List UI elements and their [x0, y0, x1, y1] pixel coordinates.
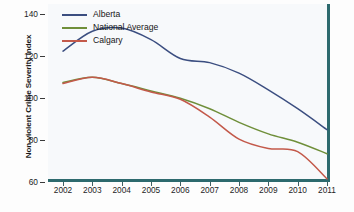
y-tick-label: 100 — [12, 94, 38, 102]
x-tick-label: 2011 — [312, 186, 342, 194]
x-tick-mark — [327, 182, 328, 186]
x-tick-mark — [92, 182, 93, 186]
y-tick-mark — [40, 14, 45, 15]
x-tick-mark — [180, 182, 181, 186]
chart-legend: AlbertaNational AverageCalgary — [62, 8, 158, 47]
y-tick-label: 120 — [12, 52, 38, 60]
y-tick-mark — [40, 98, 45, 99]
x-tick-label: 2009 — [253, 186, 283, 194]
y-tick-label: 80 — [12, 136, 38, 144]
y-tick-label: 60 — [12, 178, 38, 186]
x-tick-mark — [268, 182, 269, 186]
series-line-national-average — [63, 77, 327, 153]
x-tick-mark — [239, 182, 240, 186]
x-tick-label: 2010 — [283, 186, 313, 194]
x-tick-label: 2008 — [224, 186, 254, 194]
y-tick-label: 140 — [12, 10, 38, 18]
legend-swatch-icon — [62, 14, 87, 16]
x-tick-label: 2003 — [77, 186, 107, 194]
series-line-calgary — [63, 77, 327, 179]
x-tick-label: 2004 — [107, 186, 137, 194]
x-tick-label: 2002 — [48, 186, 78, 194]
y-tick-mark — [40, 56, 45, 57]
y-tick-mark — [40, 140, 45, 141]
x-tick-mark — [63, 182, 64, 186]
x-tick-mark — [122, 182, 123, 186]
x-tick-mark — [298, 182, 299, 186]
legend-item-alberta: Alberta — [62, 8, 158, 21]
x-tick-label: 2007 — [195, 186, 225, 194]
x-tick-mark — [151, 182, 152, 186]
legend-swatch-icon — [62, 40, 87, 42]
legend-label: National Average — [93, 23, 158, 32]
legend-item-national-average: National Average — [62, 21, 158, 34]
y-tick-mark — [40, 182, 45, 183]
legend-item-calgary: Calgary — [62, 34, 158, 47]
legend-label: Calgary — [93, 36, 123, 45]
x-tick-label: 2006 — [165, 186, 195, 194]
legend-label: Alberta — [93, 10, 120, 19]
x-tick-mark — [210, 182, 211, 186]
legend-swatch-icon — [62, 27, 87, 29]
x-tick-label: 2005 — [136, 186, 166, 194]
chart-figure: Non-violent Crime Severity Index 1401201… — [0, 0, 354, 212]
